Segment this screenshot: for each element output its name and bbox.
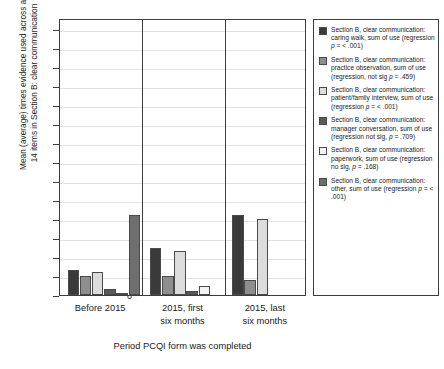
category-separator <box>225 20 226 295</box>
legend-item[interactable]: Section B, clear communication: paperwor… <box>317 146 435 171</box>
bar-group <box>225 20 307 295</box>
legend-item[interactable]: Section B, clear communication: caring w… <box>317 26 435 51</box>
bar <box>68 270 80 295</box>
bar-group <box>142 20 224 295</box>
legend-swatch-icon <box>319 57 327 65</box>
bar <box>174 251 186 295</box>
plot-area <box>59 19 306 296</box>
legend-item[interactable]: Section B, clear communication: patient/… <box>317 86 435 111</box>
legend-item-label: Section B, clear communication: practice… <box>331 56 435 81</box>
bar-series-host <box>60 20 305 295</box>
bar <box>150 248 162 295</box>
bar-group <box>60 20 142 295</box>
legend-item-label: Section B, clear communication: other, s… <box>331 177 435 202</box>
x-axis-title: Period PCQI form was completed <box>59 341 306 351</box>
bar <box>257 219 269 295</box>
bar <box>80 276 92 295</box>
legend-item-label: Section B, clear communication: manager … <box>331 116 435 141</box>
legend-item[interactable]: Section B, clear communication: practice… <box>317 56 435 81</box>
bar <box>162 276 174 295</box>
legend-item-label: Section B, clear communication: paperwor… <box>331 146 435 171</box>
x-axis-category-label: 2015, last six months <box>224 302 306 327</box>
chart-root: Mean (average) times evidence used acros… <box>0 0 444 369</box>
chart-legend: Section B, clear communication: caring w… <box>313 19 439 296</box>
x-axis-category-label: Before 2015 <box>59 302 141 315</box>
legend-swatch-icon <box>319 178 327 186</box>
bar <box>199 286 211 295</box>
bar <box>186 291 198 295</box>
bar <box>232 215 244 295</box>
y-axis-title: Mean (average) times evidence used acros… <box>18 0 40 208</box>
legend-swatch-icon <box>319 117 327 125</box>
bar <box>92 272 104 295</box>
x-axis-category-label: 2015, first six months <box>141 302 223 327</box>
legend-item[interactable]: Section B, clear communication: other, s… <box>317 177 435 202</box>
bar <box>116 293 128 295</box>
bar <box>244 280 256 295</box>
legend-item-label: Section B, clear communication: caring w… <box>331 26 435 51</box>
legend-swatch-icon <box>319 147 327 155</box>
legend-item-label: Section B, clear communication: patient/… <box>331 86 435 111</box>
legend-item[interactable]: Section B, clear communication: manager … <box>317 116 435 141</box>
category-separator <box>142 20 143 295</box>
legend-swatch-icon <box>319 87 327 95</box>
bar <box>104 289 116 295</box>
legend-swatch-icon <box>319 27 327 35</box>
y-axis-tick-mark <box>53 296 59 297</box>
bar <box>129 215 141 295</box>
